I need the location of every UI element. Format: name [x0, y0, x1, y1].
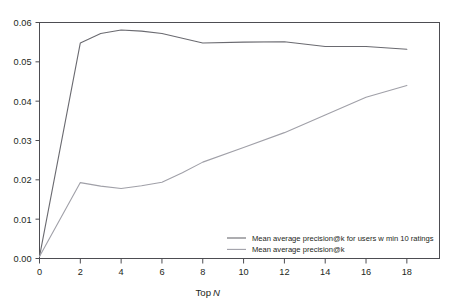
figure-background [0, 0, 451, 305]
legend-label-1: Mean average precision@k for users w min… [252, 234, 434, 243]
y-tick-label: 0.00 [14, 254, 32, 264]
x-tick-label: 12 [279, 267, 289, 277]
x-tick-label: 8 [200, 267, 205, 277]
x-tick-label: 6 [159, 267, 164, 277]
x-tick-label: 0 [37, 267, 42, 277]
x-axis-title-text: Top [196, 287, 211, 298]
chart-figure: 0.000.010.020.030.040.050.06 02468101214… [0, 0, 451, 305]
y-tick-label: 0.03 [14, 136, 32, 146]
chart-svg: 0.000.010.020.030.040.050.06 02468101214… [0, 0, 451, 305]
x-tick-label: 2 [78, 267, 83, 277]
x-axis-title: Top N [196, 287, 220, 298]
legend-label-2: Mean average precision@k [252, 245, 345, 254]
x-tick-label: 4 [119, 267, 124, 277]
y-tick-label: 0.05 [14, 57, 32, 67]
y-tick-label: 0.01 [14, 215, 32, 225]
y-tick-label: 0.06 [14, 18, 32, 28]
x-tick-label: 10 [238, 267, 248, 277]
x-tick-label: 14 [320, 267, 330, 277]
y-tick-label: 0.02 [14, 175, 32, 185]
y-tick-label: 0.04 [14, 97, 32, 107]
x-axis-title-variable: N [213, 287, 220, 298]
x-tick-label: 16 [361, 267, 371, 277]
x-tick-label: 18 [402, 267, 412, 277]
